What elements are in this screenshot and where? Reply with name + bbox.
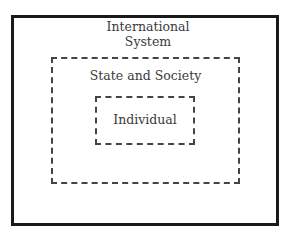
label-line-2: System bbox=[90, 34, 206, 49]
individual-label: Individual bbox=[95, 112, 195, 127]
state-and-society-label: State and Society bbox=[51, 68, 240, 83]
label-line-1: International bbox=[90, 19, 206, 34]
international-system-label: International System bbox=[90, 19, 206, 49]
